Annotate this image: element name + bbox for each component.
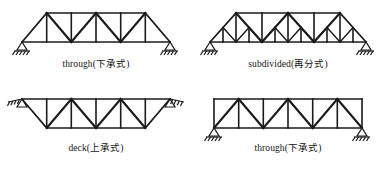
diagram-panel-through-polygonal: through(下承式): [0, 0, 192, 86]
panel-caption: deck(上承式): [0, 142, 192, 154]
truss-drawing-subdivided: [192, 0, 384, 62]
truss-types-figure: through(下承式): [0, 0, 384, 173]
support-roller-right: [161, 42, 179, 55]
diagram-panel-subdivided: subdivided(再分式): [192, 0, 384, 86]
support-roller-right: [353, 128, 371, 141]
panel-caption: through(下承式): [0, 58, 192, 70]
panel-caption: through(下承式): [192, 142, 384, 154]
support-roller-right: [357, 42, 375, 55]
truss-drawing-through-polygonal: [0, 0, 192, 62]
support-pin-left: [205, 128, 223, 141]
support-pin-left: [8, 99, 28, 107]
panel-caption: subdivided(再分式): [192, 58, 384, 70]
truss-drawing-deck: [0, 86, 192, 148]
truss-drawing-through-parallel: [192, 86, 384, 148]
diagram-panel-deck: deck(上承式): [0, 86, 192, 172]
diagram-panel-through-parallel: through(下承式): [192, 86, 384, 172]
support-pin-left: [13, 42, 31, 55]
support-roller-right: [165, 99, 184, 107]
support-pin-left: [201, 42, 219, 55]
